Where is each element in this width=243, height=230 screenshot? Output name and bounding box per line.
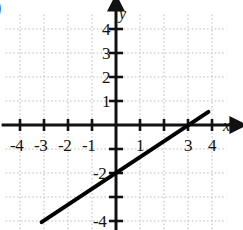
y-tick-label: 1	[102, 93, 110, 110]
x-tick-label: 3	[184, 137, 192, 154]
y-tick-label: 4	[102, 21, 110, 38]
x-axis-label: x	[223, 118, 230, 134]
x-tick-label: -1	[82, 137, 95, 154]
y-tick-label: -2	[93, 165, 106, 182]
x-tick-label: -4	[10, 137, 23, 154]
graph-figure: ) y x -4-3-2-1134 4321-2-4	[0, 0, 243, 230]
x-tick-label: -3	[34, 137, 47, 154]
y-axis-label: y	[119, 6, 126, 22]
plotted-line	[42, 112, 209, 222]
x-tick-label: 4	[208, 137, 216, 154]
coordinate-plane-svg	[0, 0, 243, 230]
y-tick-label: -4	[93, 213, 106, 230]
x-tick-label: 1	[136, 137, 144, 154]
y-tick-label: 3	[102, 45, 110, 62]
y-tick-label: 2	[102, 69, 110, 86]
x-tick-label: -2	[58, 137, 71, 154]
